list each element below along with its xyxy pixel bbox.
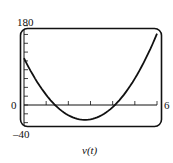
y-min-label: –40 <box>13 129 30 140</box>
y-max-label: 180 <box>17 17 34 28</box>
y-zero-label: 0 <box>11 100 17 111</box>
x-axis-ticks <box>46 101 157 105</box>
x-max-label: 6 <box>164 100 170 111</box>
chart-caption: v(t) <box>82 145 97 156</box>
y-axis-ticks <box>24 26 28 123</box>
velocity-curve <box>24 34 157 120</box>
viewing-window-frame <box>21 29 162 127</box>
